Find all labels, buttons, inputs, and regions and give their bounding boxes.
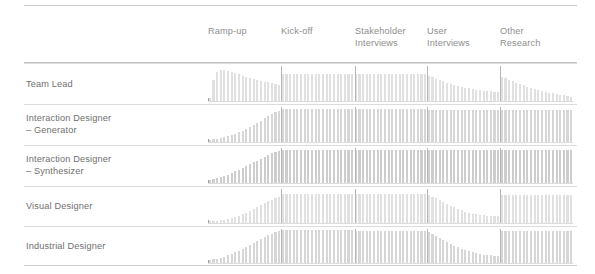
workload-chart: Ramp-upKick-offStakeholder InterviewsUse… — [0, 0, 595, 274]
row-bar-plot — [208, 229, 573, 263]
row-bar-plot — [208, 148, 573, 183]
phase-divider-4 — [500, 189, 501, 223]
row-separator — [24, 63, 577, 64]
column-header-4: User Interviews — [427, 26, 470, 49]
phase-divider-1 — [281, 229, 282, 263]
column-header-1: Ramp-up — [208, 26, 247, 38]
phase-divider-4 — [500, 148, 501, 183]
chart-row: Interaction Designer – Generator — [0, 104, 595, 145]
row-label-5: Industrial Designer — [26, 240, 105, 252]
phase-divider-4 — [500, 66, 501, 101]
row-baseline — [208, 183, 573, 184]
row-baseline — [208, 263, 573, 264]
phase-divider-2 — [355, 189, 356, 223]
column-header-band: Ramp-upKick-offStakeholder InterviewsUse… — [0, 26, 595, 62]
phase-divider-1 — [281, 107, 282, 142]
phase-divider-3 — [427, 66, 428, 101]
row-separator — [24, 145, 577, 146]
row-label-1: Team Lead — [26, 78, 73, 90]
phase-divider-4 — [500, 107, 501, 142]
phase-divider-2 — [355, 66, 356, 101]
bottom-rule — [24, 265, 577, 266]
chart-row: Visual Designer — [0, 186, 595, 226]
row-label-2: Interaction Designer – Generator — [26, 112, 111, 136]
phase-divider-1 — [281, 189, 282, 223]
phase-divider-3 — [427, 107, 428, 142]
phase-divider-3 — [427, 189, 428, 223]
row-separator — [24, 186, 577, 187]
top-rule — [24, 5, 577, 6]
phase-divider-4 — [500, 229, 501, 263]
column-header-3: Stakeholder Interviews — [355, 26, 406, 49]
phase-divider-2 — [355, 148, 356, 183]
phase-divider-2 — [355, 107, 356, 142]
row-label-3: Interaction Designer – Synthesizer — [26, 153, 111, 177]
row-baseline — [208, 142, 573, 143]
phase-divider-3 — [427, 229, 428, 263]
phase-divider-1 — [281, 148, 282, 183]
column-header-2: Kick-off — [281, 26, 313, 38]
chart-row: Team Lead — [0, 63, 595, 104]
phase-divider-2 — [355, 229, 356, 263]
row-separator — [24, 104, 577, 105]
column-header-5: Other Research — [500, 26, 541, 49]
chart-row: Interaction Designer – Synthesizer — [0, 145, 595, 186]
row-bar-plot — [208, 66, 573, 101]
phase-divider-3 — [427, 148, 428, 183]
row-bar-plot — [208, 189, 573, 223]
chart-row: Industrial Designer — [0, 226, 595, 266]
phase-divider-1 — [281, 66, 282, 101]
row-label-4: Visual Designer — [26, 200, 92, 212]
row-baseline — [208, 101, 573, 102]
row-bar-plot — [208, 107, 573, 142]
row-separator — [24, 226, 577, 227]
row-baseline — [208, 223, 573, 224]
